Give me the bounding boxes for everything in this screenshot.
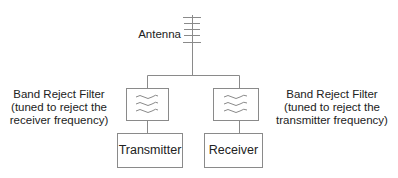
antenna-label: Antenna bbox=[135, 28, 181, 41]
left-filter-wave-icon bbox=[136, 95, 158, 112]
right-filter-label: Band Reject Filter (tuned to reject the … bbox=[266, 88, 398, 127]
left-filter-label-line: receiver frequency) bbox=[0, 114, 118, 127]
left-filter-label-line: (tuned to reject the bbox=[0, 101, 118, 114]
right-filter-box bbox=[214, 89, 259, 121]
left-filter-box bbox=[127, 89, 169, 121]
transmitter-label: Transmitter bbox=[117, 143, 183, 157]
right-filter-label-line: (tuned to reject the bbox=[266, 101, 398, 114]
left-filter-label: Band Reject Filter (tuned to reject the … bbox=[0, 88, 118, 127]
left-filter-label-line: Band Reject Filter bbox=[0, 88, 118, 101]
right-filter-label-line: transmitter frequency) bbox=[266, 114, 398, 127]
receiver-label: Receiver bbox=[204, 143, 263, 157]
right-filter-label-line: Band Reject Filter bbox=[266, 88, 398, 101]
right-filter-wave-icon bbox=[224, 95, 247, 112]
